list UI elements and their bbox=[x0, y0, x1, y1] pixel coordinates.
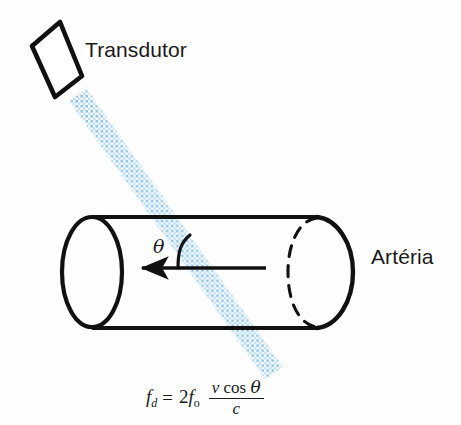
equation-numerator: v cos θ bbox=[209, 378, 264, 399]
angle-theta-label: θ bbox=[153, 235, 165, 257]
equation-cos-operator: cos bbox=[224, 378, 247, 397]
transducer-label: Transdutor bbox=[85, 38, 187, 62]
equation-denominator: c bbox=[232, 399, 240, 418]
equation-velocity-symbol: v bbox=[212, 378, 220, 397]
equation-lhs-subscript: d bbox=[151, 396, 157, 411]
equation-lhs: fd bbox=[146, 386, 157, 411]
equation-coefficient: 2 bbox=[179, 386, 189, 407]
artery-near-end-ellipse bbox=[62, 217, 122, 327]
artery-label: Artéria bbox=[371, 245, 434, 269]
equation-source-subscript: o bbox=[194, 396, 200, 411]
artery-right-cap bbox=[317, 217, 353, 328]
equation-equals-sign: = bbox=[162, 387, 173, 409]
ultrasound-beam bbox=[69, 89, 283, 380]
transducer-body bbox=[32, 22, 82, 97]
doppler-diagram-figure: Transdutor Artéria θ fd = 2fo v cos θ c bbox=[0, 0, 461, 425]
doppler-equation: fd = 2fo v cos θ c bbox=[146, 378, 264, 419]
artery-far-end-dashed bbox=[288, 218, 317, 327]
equation-fraction: v cos θ c bbox=[209, 378, 264, 419]
diagram-canvas bbox=[0, 0, 461, 425]
equation-rhs-coefficient-group: 2fo bbox=[179, 386, 200, 411]
equation-theta-symbol: θ bbox=[251, 377, 261, 397]
